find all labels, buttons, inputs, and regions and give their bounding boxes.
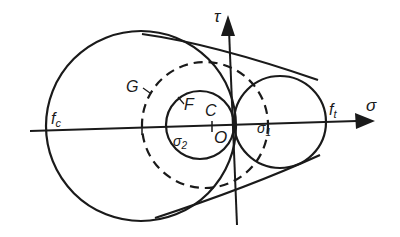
leader-g <box>143 88 150 93</box>
label-g: G <box>126 78 138 95</box>
label-ft: ft <box>329 101 337 120</box>
label-o: O <box>214 128 227 147</box>
sigma-axis-arrow <box>355 113 375 129</box>
label-sigma2: σ2 <box>173 133 187 151</box>
tau-label: τ <box>214 7 222 26</box>
sigma-label: σ <box>366 96 377 115</box>
label-fc: fc <box>51 110 61 129</box>
mohr-diagram: τ σ G F C O fc ft σ2 σ1 <box>0 0 400 237</box>
sigma-axis <box>30 121 357 131</box>
label-f: F <box>184 96 195 113</box>
label-c: C <box>205 102 217 119</box>
tau-axis-arrow <box>221 15 235 36</box>
